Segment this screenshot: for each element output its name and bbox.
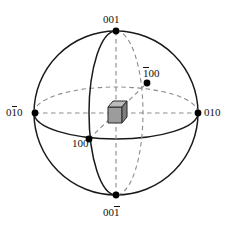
pole-dot-right bbox=[195, 110, 202, 117]
label-bottom-overbar-digit: 1 bbox=[114, 207, 120, 218]
label-bottom-prefix: 00 bbox=[103, 206, 114, 218]
pole-dot-back bbox=[144, 80, 151, 87]
pole-sphere-figure: 001 001 010 010 100 100 bbox=[0, 0, 236, 232]
label-back-suffix: 00 bbox=[149, 67, 160, 79]
label-left-overbar-digit: 1 bbox=[12, 107, 18, 118]
pole-dot-left bbox=[32, 110, 39, 117]
label-left-suffix: 0 bbox=[17, 106, 23, 118]
pole-sphere-diagram bbox=[0, 0, 236, 232]
cube-front-face bbox=[108, 107, 122, 123]
label-back-overbar-digit: 1 bbox=[143, 68, 149, 79]
pole-label-0-10-left: 010 bbox=[6, 107, 23, 118]
pole-label-010-right: 010 bbox=[204, 107, 221, 118]
cubic-unit-cell bbox=[108, 101, 127, 123]
pole-label-00-1-bottom: 001 bbox=[103, 207, 120, 218]
pole-label-100-front: 100 bbox=[72, 138, 89, 149]
pole-dot-bottom bbox=[113, 192, 120, 199]
pole-label-001-top: 001 bbox=[103, 14, 120, 25]
pole-label--100-back: 100 bbox=[143, 68, 160, 79]
pole-dot-top bbox=[113, 28, 120, 35]
